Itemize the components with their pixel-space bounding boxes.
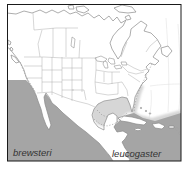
- island-antilles-1: [176, 128, 178, 130]
- island-bahamas-1: [140, 107, 141, 108]
- map-canvas: brewsteri leucogaster: [0, 0, 187, 171]
- distribution-map: brewsteri leucogaster: [0, 0, 187, 171]
- island-bahamas-2: [145, 110, 146, 111]
- island-banks: [68, 5, 74, 9]
- lake-winnipeg: [71, 37, 75, 48]
- range-label-brewsteri: brewsteri: [13, 147, 52, 158]
- island-puerto-rico: [169, 126, 174, 128]
- range-label-leucogaster: leucogaster: [112, 148, 162, 159]
- island-jamaica: [135, 128, 141, 130]
- island-bahamas-3: [149, 113, 150, 114]
